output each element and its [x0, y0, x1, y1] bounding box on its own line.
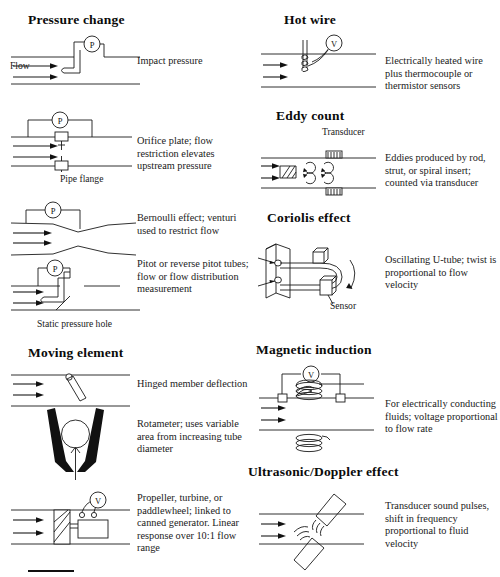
diagram-magnetic-induction: V: [256, 362, 386, 460]
diagram-orifice-plate: P: [8, 112, 148, 180]
section-heading-hot-wire: Hot wire: [284, 12, 336, 28]
gauge-label-p: P: [90, 40, 95, 50]
gauge-label-p-orifice: P: [58, 116, 63, 126]
diagram-propeller-turbine: V: [8, 492, 148, 554]
annotation-pipe-flange: Pipe flange: [60, 173, 103, 184]
diagram-ultrasonic: [256, 486, 386, 572]
diagram-pitot-tube: P: [8, 252, 158, 322]
diagram-coriolis: [258, 232, 388, 312]
diagram-rotameter: [30, 406, 130, 484]
annotation-sensor: Sensor: [330, 300, 356, 311]
annotation-static-pressure-hole: Static pressure hole: [37, 318, 112, 329]
figure-page: Pressure change P Flow Impact pressure: [0, 0, 500, 577]
section-heading-moving-element: Moving element: [28, 345, 123, 361]
annotation-transducer: Transducer: [322, 126, 365, 137]
caption-coriolis: Oscillating U-tube; twist is proportiona…: [385, 254, 497, 292]
caption-hinged-member: Hinged member deflection: [137, 378, 249, 391]
gauge-label-v-propeller: V: [95, 496, 102, 506]
section-heading-pressure-change: Pressure change: [28, 12, 125, 28]
section-heading-eddy-count: Eddy count: [276, 108, 344, 124]
caption-impact-pressure: Impact pressure: [137, 55, 242, 68]
section-heading-ultrasonic-doppler: Ultrasonic/Doppler effect: [248, 464, 399, 480]
diagram-eddy-count: [258, 140, 388, 198]
caption-hot-wire: Electrically heated wire plus thermocoup…: [385, 55, 495, 93]
gauge-label-v-magnetic: V: [308, 370, 315, 380]
section-heading-coriolis-effect: Coriolis effect: [267, 210, 351, 226]
gauge-label-p-venturi: P: [51, 206, 56, 216]
caption-orifice-plate: Orifice plate; flow restriction elevates…: [137, 135, 245, 173]
diagram-hot-wire: V: [258, 32, 388, 92]
caption-ultrasonic: Transducer sound pulses, shift in freque…: [385, 500, 497, 550]
caption-magnetic-induction: For electrically conducting fluids; volt…: [385, 398, 500, 436]
section-heading-magnetic-induction: Magnetic induction: [256, 342, 372, 358]
gauge-label-v-hotwire: V: [331, 39, 338, 49]
gauge-label-p-pitot: P: [53, 264, 58, 274]
footer-rule: [28, 570, 74, 572]
caption-pitot-tube: Pitot or reverse pitot tubes; flow or fl…: [137, 258, 249, 296]
caption-venturi: Bernoulli effect; venturi used to restri…: [137, 212, 247, 237]
flow-label: Flow: [10, 60, 30, 71]
caption-eddy-count: Eddies produced by rod, strut, or spiral…: [385, 152, 497, 190]
caption-propeller-turbine: Propeller, turbine, or paddlewheel; link…: [137, 492, 252, 555]
caption-rotameter: Rotameter; uses variable area from incre…: [137, 418, 249, 456]
